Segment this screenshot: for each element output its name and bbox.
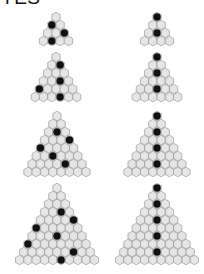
hex-cell [82, 255, 90, 265]
hex-cell [124, 167, 132, 177]
hex-cell [165, 239, 173, 249]
hex-cell [56, 20, 64, 30]
black-stone-icon [57, 208, 64, 215]
hex-cell [40, 135, 48, 145]
hex-cell [169, 215, 177, 225]
hex-cell [161, 68, 169, 78]
hex-cell [45, 159, 53, 169]
hex-cell [136, 215, 144, 225]
hex-cell [78, 247, 86, 257]
hex-cell [157, 167, 165, 177]
hex-cell [49, 191, 57, 201]
left-triangle-2 [31, 52, 81, 102]
hex-cell [61, 231, 69, 241]
black-stone-icon [153, 128, 160, 135]
hex-cell [64, 92, 72, 102]
hex-cell [48, 60, 56, 70]
hex-cell [145, 159, 153, 169]
hex-cell [174, 239, 182, 249]
hex-cell [56, 36, 64, 46]
hex-cell [182, 255, 190, 265]
hex-cell [45, 143, 53, 153]
right-triangle-4 [116, 183, 199, 265]
hex-cell [52, 52, 60, 62]
hex-cell [149, 60, 157, 70]
hex-cell [182, 167, 190, 177]
black-stone-icon [70, 216, 77, 223]
hex-cell [53, 143, 61, 153]
hex-cell [182, 239, 190, 249]
hex-cell [52, 28, 60, 38]
hex-cell [149, 151, 157, 161]
hex-cell [36, 231, 44, 241]
hex-cell [16, 255, 24, 265]
black-stone-icon [61, 29, 68, 36]
black-stone-icon [153, 184, 160, 191]
hex-cell [57, 151, 65, 161]
hex-cell [60, 84, 68, 94]
hex-cell [157, 20, 165, 30]
hex-cell [149, 223, 157, 233]
hex-cell [65, 239, 73, 249]
hex-cell [149, 255, 157, 265]
right-triangle-1 [140, 12, 173, 46]
hex-cell [157, 151, 165, 161]
hex-cell [145, 231, 153, 241]
hex-cell [132, 92, 140, 102]
hex-cell [145, 68, 153, 78]
hex-cell [157, 135, 165, 145]
hex-cell [174, 223, 182, 233]
hex-cell [40, 255, 48, 265]
hex-cell [132, 167, 140, 177]
hex-cell [65, 255, 73, 265]
hex-cell [64, 36, 72, 46]
hex-cell [28, 247, 36, 257]
hex-cell [136, 84, 144, 94]
hex-cell [132, 239, 140, 249]
hex-puzzle-board [0, 0, 204, 274]
hex-cell [169, 231, 177, 241]
hex-cell [149, 119, 157, 129]
hex-cell [165, 135, 173, 145]
hex-cell [120, 247, 128, 257]
hex-cell [161, 84, 169, 94]
black-stone-icon [33, 224, 40, 231]
hex-cell [136, 247, 144, 257]
hex-cell [157, 223, 165, 233]
hex-cell [40, 239, 48, 249]
black-stone-icon [153, 85, 160, 92]
hex-cell [74, 151, 82, 161]
hex-cell [124, 255, 132, 265]
hex-cell [157, 119, 165, 129]
hex-cell [65, 151, 73, 161]
hex-cell [61, 199, 69, 209]
hex-cell [157, 239, 165, 249]
black-stone-icon [49, 152, 56, 159]
hex-cell [57, 223, 65, 233]
black-stone-icon [153, 29, 160, 36]
hex-cell [60, 68, 68, 78]
black-stone-icon [66, 136, 73, 143]
hex-cell [124, 239, 132, 249]
hex-cell [32, 151, 40, 161]
hex-cell [40, 207, 48, 217]
hex-cell [78, 159, 86, 169]
black-stone-icon [153, 248, 160, 255]
hex-cell [128, 159, 136, 169]
hex-cell [140, 92, 148, 102]
hex-cell [65, 167, 73, 177]
hex-cell [49, 167, 57, 177]
hex-cell [40, 151, 48, 161]
hex-cell [82, 239, 90, 249]
hex-cell [69, 143, 77, 153]
left-triangle-3 [24, 111, 90, 177]
black-stone-icon [153, 216, 160, 223]
hex-cell [45, 199, 53, 209]
hex-cell [149, 167, 157, 177]
hex-cell [157, 76, 165, 86]
black-stone-icon [153, 13, 160, 20]
hex-cell [132, 255, 140, 265]
hex-cell [32, 239, 40, 249]
hex-cell [61, 215, 69, 225]
hex-cell [31, 92, 39, 102]
